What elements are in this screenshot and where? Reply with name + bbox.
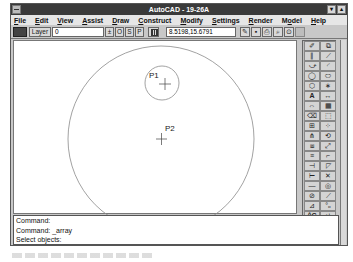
drawing-area[interactable]: P1 P2 bbox=[13, 40, 297, 214]
autocad-window: AutoCAD - 19-26A ▾ ▴ FileEditViewAssistD… bbox=[10, 3, 348, 246]
move-tool-icon[interactable]: ⊞ bbox=[304, 121, 320, 131]
menu-assist[interactable]: Assist bbox=[82, 17, 103, 24]
layer-dropdown-button[interactable]: ± bbox=[105, 27, 114, 37]
command-line-1: Command: bbox=[16, 216, 338, 226]
menu-modify[interactable]: Modify bbox=[180, 17, 203, 24]
chamfer-tool-icon[interactable]: ◸ bbox=[320, 161, 336, 171]
toolbar: Layer 0 ± O S P 8.5198,15.6791 ✎▪⎙⌕⊙ bbox=[11, 25, 347, 39]
trim-tool-icon[interactable]: ⊣ bbox=[304, 161, 320, 171]
point-tool-icon[interactable]: ∗ bbox=[320, 81, 336, 91]
crosshair-p1-icon bbox=[159, 78, 171, 90]
dimension-tool-icon[interactable]: ↔ bbox=[320, 91, 336, 101]
polygon-tool-icon[interactable]: ⬡ bbox=[304, 81, 320, 91]
extend-tool-icon[interactable]: ⊢ bbox=[304, 171, 320, 181]
stretch-tool-icon[interactable]: ⇔ bbox=[304, 101, 320, 111]
explode-tool-icon[interactable]: ✕ bbox=[320, 171, 336, 181]
window-title: AutoCAD - 19-26A bbox=[149, 6, 209, 13]
fillet-tool-icon[interactable]: ⌐ bbox=[320, 151, 336, 161]
arc-tool-icon[interactable]: ◜ bbox=[320, 61, 336, 71]
measure-tool-icon[interactable]: ⟋ bbox=[320, 191, 336, 201]
menu-render[interactable]: Render bbox=[249, 17, 273, 24]
zoom-window-icon[interactable]: ⌕ bbox=[273, 27, 283, 37]
command-line-2: Command: _array bbox=[16, 226, 338, 236]
menu-file[interactable]: File bbox=[14, 17, 26, 24]
pedit-tool-icon[interactable]: ⊘ bbox=[304, 191, 320, 201]
command-line-3: Select objects: bbox=[16, 235, 338, 245]
copy-tool-icon[interactable]: ⧈ bbox=[304, 141, 320, 151]
color-swatch[interactable] bbox=[13, 27, 27, 37]
point-label-p1: P1 bbox=[149, 71, 159, 80]
elevation-tool-icon[interactable]: ⊿ bbox=[304, 201, 320, 211]
circle-tool-icon[interactable]: ◯ bbox=[304, 71, 320, 81]
donut-tool-icon[interactable]: ◎ bbox=[320, 181, 336, 191]
divide-tool-icon[interactable]: — bbox=[304, 181, 320, 191]
layer-field[interactable]: 0 bbox=[52, 27, 104, 37]
menu-construct[interactable]: Construct bbox=[138, 17, 171, 24]
snap-tool-icon[interactable]: °ₒ bbox=[320, 201, 336, 211]
menu-bar: FileEditViewAssistDrawConstructModifySet… bbox=[11, 15, 347, 25]
large-circle[interactable] bbox=[68, 46, 254, 215]
select-window-tool-icon[interactable]: ⧉ bbox=[320, 41, 336, 51]
menu-edit[interactable]: Edit bbox=[35, 17, 48, 24]
snap-button[interactable]: S bbox=[125, 27, 134, 37]
array-tool-icon[interactable]: ⁘ bbox=[320, 121, 336, 131]
mirror-tool-icon[interactable]: ⋔ bbox=[304, 131, 320, 141]
minimize-button[interactable]: ▾ bbox=[327, 5, 336, 14]
polyline-tool-icon[interactable]: ⤻ bbox=[304, 61, 320, 71]
layer-button[interactable]: Layer bbox=[29, 27, 51, 37]
toolbar-blank-button[interactable] bbox=[295, 27, 305, 37]
drawing-canvas bbox=[14, 41, 298, 215]
paper-space-button[interactable]: P bbox=[135, 27, 144, 37]
save-icon[interactable]: ▪ bbox=[251, 27, 261, 37]
parallel-lines-tool-icon[interactable]: ∥ bbox=[304, 51, 320, 61]
menu-settings[interactable]: Settings bbox=[212, 17, 240, 24]
menu-help[interactable]: Help bbox=[311, 17, 326, 24]
coordinates-display: 8.5198,15.6791 bbox=[166, 27, 236, 37]
figure-caption bbox=[12, 253, 152, 258]
ellipse-tool-icon[interactable]: ⬭ bbox=[320, 71, 336, 81]
system-menu-icon[interactable] bbox=[12, 5, 21, 14]
point-label-p2: P2 bbox=[165, 124, 175, 133]
redraw-icon[interactable]: ⊙ bbox=[284, 27, 294, 37]
maximize-button[interactable]: ▴ bbox=[337, 5, 346, 14]
print-icon[interactable]: ⎙ bbox=[262, 27, 272, 37]
hatch-tool-icon[interactable]: ▦ bbox=[320, 101, 336, 111]
menu-view[interactable]: View bbox=[57, 17, 73, 24]
ortho-button[interactable]: O bbox=[115, 27, 124, 37]
title-bar: AutoCAD - 19-26A ▾ ▴ bbox=[11, 4, 347, 15]
break-tool-icon[interactable]: ⬚ bbox=[320, 111, 336, 121]
pencil-tool-icon[interactable]: ✐ bbox=[304, 41, 320, 51]
command-window[interactable]: Command: Command: _array Select objects: bbox=[13, 215, 339, 245]
grid-icon[interactable] bbox=[148, 27, 159, 37]
offset-tool-icon[interactable]: ≡ bbox=[304, 151, 320, 161]
menu-draw[interactable]: Draw bbox=[112, 17, 129, 24]
text-tool-icon[interactable]: A bbox=[304, 91, 320, 101]
menu-model[interactable]: Model bbox=[282, 17, 302, 24]
rotate-tool-icon[interactable]: ⟲ bbox=[320, 131, 336, 141]
scale-tool-icon[interactable]: ⤢ bbox=[320, 141, 336, 151]
crosshair-p2-icon bbox=[156, 133, 167, 145]
open-icon[interactable]: ✎ bbox=[240, 27, 250, 37]
vertical-scrollbar[interactable] bbox=[340, 40, 346, 245]
erase-tool-icon[interactable]: ⌫ bbox=[304, 111, 320, 121]
draw-toolbox: ✐⧉∥⟋⤻◜◯⬭⬡∗A↔⇔▦⌫⬚⊞⁘⋔⟲⧈⤢≡⌐⊣◸⊢✕—◎⊘⟋⊿°ₒ^C↵ bbox=[302, 40, 336, 222]
line-tool-icon[interactable]: ⟋ bbox=[320, 51, 336, 61]
